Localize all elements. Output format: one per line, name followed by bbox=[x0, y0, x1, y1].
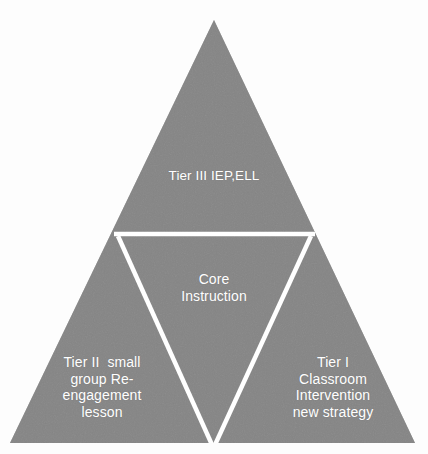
pyramid-svg bbox=[0, 0, 428, 454]
tier-pyramid-diagram: Tier III IEP,ELL Core Instruction Tier I… bbox=[0, 0, 428, 454]
pyramid-body bbox=[10, 20, 415, 443]
